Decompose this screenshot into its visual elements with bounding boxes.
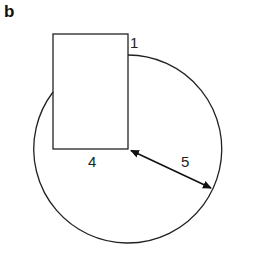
rect-width-label: 4: [88, 153, 96, 170]
radius-label: 5: [181, 153, 189, 170]
rectangle: [53, 34, 128, 149]
corner-label: 1: [130, 34, 138, 51]
radius-arrow: [131, 151, 211, 189]
panel-label: b: [4, 2, 14, 21]
diagram-canvas: b 1 4 5: [0, 0, 260, 259]
